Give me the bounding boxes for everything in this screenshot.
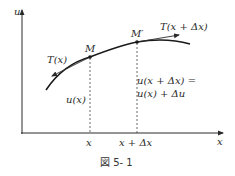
u-axis-label: u bbox=[14, 7, 20, 17]
u-of-x-label: u(x) bbox=[66, 95, 86, 105]
u-shift-label-line1: u(x + Δx) = bbox=[137, 76, 196, 86]
figure-caption: 図 5- 1 bbox=[100, 158, 133, 168]
tangent-left-label: T(x) bbox=[47, 55, 67, 65]
point-m-prime-label: M′ bbox=[131, 29, 144, 39]
tick-x-label: x bbox=[86, 138, 92, 148]
point-m-dot bbox=[88, 55, 92, 59]
u-shift-label-line2: u(x) + Δu bbox=[137, 89, 185, 99]
tangent-right-label: T(x + Δx) bbox=[160, 22, 208, 32]
point-m-prime-dot bbox=[135, 40, 139, 44]
x-axis-label: x bbox=[217, 137, 223, 147]
point-m-label: M bbox=[85, 44, 95, 54]
tick-x-plus-dx-label: x + Δx bbox=[119, 138, 152, 148]
string-element-diagram: u x M M′ T(x) T(x + Δx) u(x) u(x + Δx) =… bbox=[0, 0, 235, 176]
